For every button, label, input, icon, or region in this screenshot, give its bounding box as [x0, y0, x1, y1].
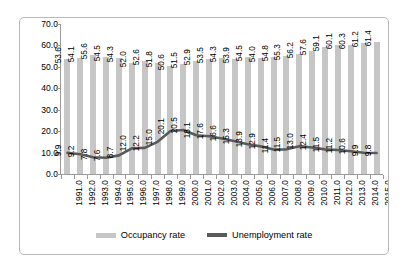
x-axis-tick-mark	[331, 175, 332, 179]
x-axis-tick-mark	[280, 175, 281, 179]
y-axis-tick-mark	[56, 67, 60, 68]
line-value-label: 15.3	[223, 128, 231, 144]
line-value-label: 11.5	[274, 137, 282, 152]
line-value-label: 12.9	[248, 134, 256, 150]
y-axis-tick-mark	[56, 24, 60, 25]
line-value-label: 11.4	[261, 137, 269, 152]
x-axis-tick-label: 1992.0	[88, 180, 96, 206]
line-value-label: 13.9	[236, 131, 244, 147]
x-axis-tick-label: 2000.0	[191, 180, 199, 206]
x-axis-tick-mark	[61, 175, 62, 179]
x-axis-tick-label: 1991.0	[75, 180, 83, 206]
y-axis-tick-mark	[56, 88, 60, 89]
x-axis-tick-mark	[370, 175, 371, 179]
x-axis-tick-mark	[100, 175, 101, 179]
x-axis-tick-label: 2005.0	[255, 180, 263, 206]
x-axis-tick-label: 2006.0	[268, 180, 276, 206]
x-axis-tick-mark	[138, 175, 139, 179]
bar-swatch-icon	[96, 233, 116, 238]
plot-area: 53.654.155.654.554.352.052.651.850.651.5…	[61, 24, 383, 174]
line-value-label: 9.2	[68, 146, 76, 157]
x-axis-tick-mark	[164, 175, 165, 179]
chart-legend: Occupancy rate Unemployment rate	[20, 230, 388, 240]
x-axis-tick-label: 2003.0	[230, 180, 238, 206]
x-axis-tick-mark	[357, 175, 358, 179]
x-axis-tick-label: 1994.0	[114, 180, 122, 206]
x-axis-line	[60, 174, 383, 175]
x-axis-tick-label: 1997.0	[152, 180, 160, 206]
x-axis-tick-mark	[228, 175, 229, 179]
legend-label-occupancy-rate: Occupancy rate	[121, 230, 185, 240]
line-value-label: 12.4	[300, 135, 308, 151]
x-axis-tick-label: 2013.0	[358, 180, 366, 206]
x-axis-tick-label: 1996.0	[139, 180, 147, 206]
x-axis-tick-label: 2014.0	[371, 180, 379, 206]
legend-label-unemployment-rate: Unemployment rate	[232, 230, 312, 240]
x-axis-tick-label: 2004.0	[242, 180, 250, 206]
line-value-label: 16.6	[210, 126, 218, 142]
x-axis-tick-label: 1995.0	[126, 180, 134, 206]
line-value-label: 18.1	[184, 122, 192, 138]
line-value-label: 8.7	[107, 147, 115, 158]
x-axis-tick-mark	[254, 175, 255, 179]
x-axis-tick-mark	[177, 175, 178, 179]
line-value-label: 9.8	[364, 145, 372, 156]
x-axis-tick-mark	[113, 175, 114, 179]
line-value-label: 20.5	[171, 117, 179, 133]
line-value-label: 15.0	[145, 129, 153, 145]
x-axis-tick-label: 2012.0	[345, 180, 353, 206]
y-axis-tick-mark	[56, 110, 60, 111]
x-axis-tick-label: 2009.0	[307, 180, 315, 206]
line-value-label: 9.9	[351, 145, 359, 156]
x-axis-tick-mark	[74, 175, 75, 179]
x-axis-tick-label: 2001.0	[204, 180, 212, 206]
line-value-label: 17.6	[197, 124, 205, 140]
x-axis-tick-label: 2015.0	[384, 180, 389, 206]
x-axis-tick-mark	[190, 175, 191, 179]
line-value-label: 12.0	[120, 136, 128, 152]
line-value-label: 20.1	[158, 118, 166, 134]
line-value-label: 12.2	[133, 135, 141, 151]
line-value-label: 7.6	[94, 150, 102, 161]
line-value-label: 9.9	[55, 145, 63, 156]
x-axis-tick-mark	[241, 175, 242, 179]
line-value-label: 7.8	[81, 149, 89, 160]
x-axis-tick-label: 1999.0	[178, 180, 186, 206]
x-axis-tick-mark	[293, 175, 294, 179]
x-axis-tick-label: 2002.0	[217, 180, 225, 206]
x-axis-tick-mark	[344, 175, 345, 179]
x-axis-tick-mark	[267, 175, 268, 179]
line-value-label: 11.2	[326, 138, 334, 153]
x-axis-tick-label: 2010.0	[320, 180, 328, 206]
chart-container: 70.060.050.040.030.020.010.00.0 53.654.1…	[19, 17, 389, 255]
x-axis-tick-mark	[203, 175, 204, 179]
line-value-label: 13.0	[287, 133, 295, 149]
x-axis-tick-mark	[87, 175, 88, 179]
line-swatch-icon	[207, 233, 227, 237]
line-value-label: 10.6	[339, 139, 347, 155]
legend-item-occupancy-rate: Occupancy rate	[96, 230, 185, 240]
x-axis-labels: 1991.01992.01993.01994.01995.01996.01997…	[61, 180, 383, 230]
x-axis-tick-mark	[319, 175, 320, 179]
x-axis-tick-label: 2007.0	[281, 180, 289, 206]
x-axis-tick-mark	[125, 175, 126, 179]
legend-item-unemployment-rate: Unemployment rate	[207, 230, 312, 240]
x-axis-tick-mark	[383, 175, 384, 179]
y-axis-tick-mark	[56, 131, 60, 132]
x-axis-tick-mark	[151, 175, 152, 179]
x-axis-tick-label: 2011.0	[333, 180, 341, 205]
x-axis-tick-label: 1993.0	[101, 180, 109, 206]
x-axis-tick-label: 1998.0	[165, 180, 173, 206]
x-axis-tick-mark	[216, 175, 217, 179]
line-value-label: 11.5	[313, 137, 321, 152]
x-axis-tick-mark	[306, 175, 307, 179]
x-axis-tick-label: 2008.0	[294, 180, 302, 206]
